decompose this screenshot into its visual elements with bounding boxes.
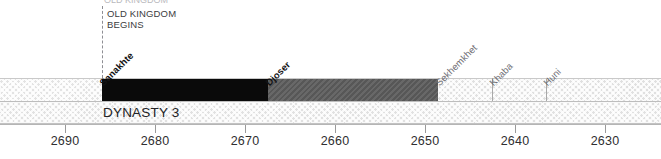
axis-tick-label: 2630 bbox=[591, 134, 620, 149]
axis-tick bbox=[605, 125, 606, 133]
axis-line bbox=[0, 124, 661, 125]
axis-tick-label: 2660 bbox=[321, 134, 350, 149]
timeline-diagram: OLD KINGDOM OLD KINGDOM BEGINS Sanakhte … bbox=[0, 0, 661, 159]
axis-tick-label: 2670 bbox=[231, 134, 260, 149]
axis-tick bbox=[65, 125, 66, 133]
axis-tick bbox=[335, 125, 336, 133]
axis-tick-label: 2650 bbox=[411, 134, 440, 149]
axis-tick bbox=[425, 125, 426, 133]
axis-tick bbox=[515, 125, 516, 133]
axis-tick bbox=[155, 125, 156, 133]
old-kingdom-marker-line bbox=[102, 6, 103, 78]
axis-tick-label: 2690 bbox=[51, 134, 80, 149]
axis-tick-label: 2640 bbox=[501, 134, 530, 149]
reign-segment-huni[interactable] bbox=[546, 79, 661, 101]
dynasty-label: DYNASTY 3 bbox=[103, 105, 180, 121]
clipped-header-text: OLD KINGDOM bbox=[0, 0, 661, 5]
reign-segment-djoser[interactable] bbox=[268, 79, 438, 101]
reign-segment-sanakhte[interactable] bbox=[102, 79, 268, 101]
dynasty-band bbox=[0, 102, 661, 124]
axis-tick bbox=[245, 125, 246, 133]
axis-tick-label: 2680 bbox=[141, 134, 170, 149]
old-kingdom-marker-caption: OLD KINGDOM BEGINS bbox=[107, 8, 176, 30]
clipped-header-label: OLD KINGDOM bbox=[104, 0, 168, 5]
